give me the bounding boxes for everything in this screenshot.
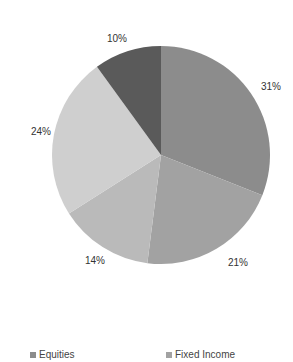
legend-item-fixed-income: Fixed Income — [166, 349, 235, 360]
slice-percent-label: 31% — [261, 81, 281, 92]
chart-legend: Equities Fixed Income — [0, 349, 293, 362]
slice-percent-label: 24% — [31, 126, 51, 137]
slice-percent-label: 21% — [228, 257, 248, 268]
legend-label: Fixed Income — [175, 349, 235, 360]
slice-percent-label: 14% — [85, 255, 105, 266]
legend-label: Equities — [39, 349, 75, 360]
pie-chart — [0, 0, 293, 340]
slice-percent-label: 10% — [107, 33, 127, 44]
legend-item-equities: Equities — [30, 349, 75, 360]
legend-swatch-icon — [166, 352, 172, 358]
legend-swatch-icon — [30, 352, 36, 358]
